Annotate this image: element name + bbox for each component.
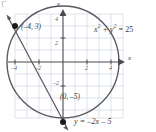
point-label-0-neg5: (0, –5) [60, 93, 80, 101]
point-label-neg4-3: (–4, 3) [21, 23, 41, 31]
y-axis-arrow [60, 9, 67, 16]
line-arrow-bottom [63, 126, 68, 131]
circle-eq-mid: + y [100, 25, 113, 34]
x-axis-label: x [128, 55, 131, 62]
x-tick-label-2: 2 [85, 65, 88, 71]
graph-figure: x y –4 –2 2 4 4 2 –2 (–4, 3) (0, –5) x2 … [0, 0, 156, 132]
y-tick-label--2: –2 [53, 80, 59, 86]
point-marker-neg4-3 [12, 23, 18, 29]
y-axis-label: y [57, 1, 60, 8]
x-tick-label--2: –2 [35, 65, 41, 71]
x-axis-arrow [118, 59, 125, 66]
line-equation-label: y = –2x – 5 [74, 118, 112, 126]
y-tick-label-2: 2 [55, 40, 58, 46]
x-tick-label--4: –4 [11, 65, 17, 71]
line-arrow-top [7, 15, 12, 21]
circle-equation-label: x2 + y2 = 25 [94, 24, 133, 34]
graph-canvas [0, 0, 156, 132]
y-tick-label-4: 4 [55, 16, 58, 22]
circle-eq-tail: = 25 [116, 25, 133, 34]
x-tick-label-4: 4 [109, 65, 112, 71]
point-marker-0-neg5 [60, 119, 66, 125]
